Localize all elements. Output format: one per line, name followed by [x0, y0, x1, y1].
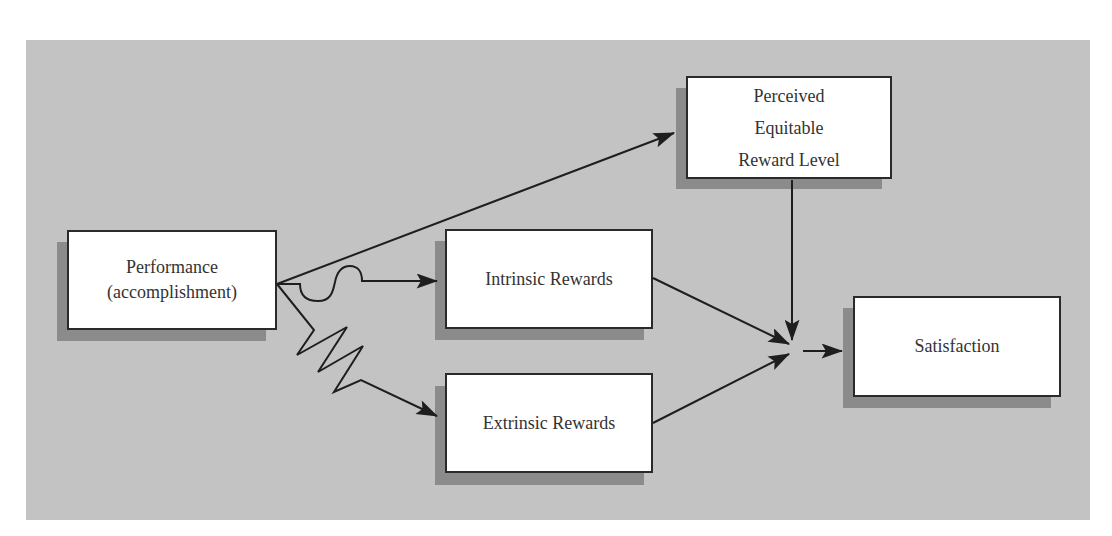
satisfaction-node: Satisfaction [853, 296, 1061, 397]
performance-label: Performance (accomplishment) [107, 255, 237, 305]
satisfaction-label: Satisfaction [915, 334, 1000, 359]
perceived-equitable-reward-node: Perceived Equitable Reward Level [686, 76, 892, 179]
performance-node: Performance (accomplishment) [67, 230, 277, 330]
intrinsic-rewards-label: Intrinsic Rewards [485, 267, 612, 292]
perceived-equitable-reward-label: Perceived Equitable Reward Level [738, 80, 839, 176]
extrinsic-rewards-label: Extrinsic Rewards [483, 411, 615, 436]
extrinsic-rewards-node: Extrinsic Rewards [445, 373, 653, 473]
intrinsic-rewards-node: Intrinsic Rewards [445, 229, 653, 329]
